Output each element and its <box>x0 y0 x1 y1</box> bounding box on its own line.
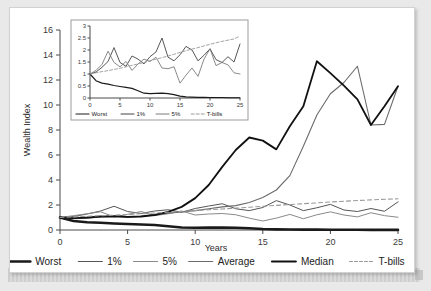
figure-frame: 02468101214160510152025 Wealth Index Yea… <box>0 0 431 291</box>
inset-y-tick-label: 1.5 <box>78 59 87 65</box>
x-tick-label: 20 <box>325 237 335 247</box>
inset-legend-label-5-: 5% <box>172 111 181 117</box>
inset-x-tick-label: 25 <box>237 102 244 108</box>
y-tick-label: 12 <box>43 75 53 85</box>
y-tick-label: 0 <box>48 225 53 235</box>
inset-legend-label-worst: Worst <box>92 111 108 117</box>
inset-legend-label-1-: 1% <box>137 111 146 117</box>
y-axis-title: Wealth Index <box>22 103 32 156</box>
x-tick-label: 10 <box>190 237 200 247</box>
y-tick-label: 8 <box>48 125 53 135</box>
inset-chart: 00.511.522.530510152025 Worst1%5%T-bills <box>71 20 248 120</box>
legend-label-5-: 5% <box>163 256 178 267</box>
x-tick-label: 15 <box>258 237 268 247</box>
chart-plot-area: 02468101214160510152025 Wealth Index Yea… <box>10 8 414 272</box>
y-tick-label: 14 <box>43 50 53 60</box>
y-tick-label: 4 <box>48 175 53 185</box>
bottom-shadow-corner <box>415 270 423 280</box>
inset-x-tick-label: 10 <box>147 102 154 108</box>
x-tick-label: 5 <box>125 237 130 247</box>
y-tick-label: 6 <box>48 150 53 160</box>
x-tick-label: 25 <box>393 237 403 247</box>
inset-panel-background <box>71 20 248 120</box>
legend-label-t-bills: T-bills <box>379 256 405 267</box>
series-line-worst <box>60 218 398 230</box>
inset-x-tick-label: 15 <box>177 102 184 108</box>
y-tick-label: 2 <box>48 200 53 210</box>
y-tick-label: 10 <box>43 100 53 110</box>
inset-legend-label-t-bills: T-bills <box>207 111 223 117</box>
legend-label-average: Average <box>218 256 256 267</box>
inset-x-tick-label: 20 <box>207 102 214 108</box>
legend-label-1-: 1% <box>107 256 122 267</box>
chart-legend: Worst1%5%AverageMedianT-bills <box>10 256 405 267</box>
x-axis-title: Years <box>205 243 228 253</box>
series-line-t-bills <box>60 199 398 218</box>
x-tick-label: 0 <box>57 237 62 247</box>
legend-label-median: Median <box>301 256 334 267</box>
y-tick-label: 16 <box>43 25 53 35</box>
chart-card: 02468101214160510152025 Wealth Index Yea… <box>9 7 415 273</box>
inset-y-tick-label: 0.5 <box>78 83 87 89</box>
legend-label-worst: Worst <box>35 256 61 267</box>
wealth-index-line-chart: 02468101214160510152025 Wealth Index Yea… <box>10 8 414 272</box>
inset-y-tick-label: 2.5 <box>78 35 87 41</box>
